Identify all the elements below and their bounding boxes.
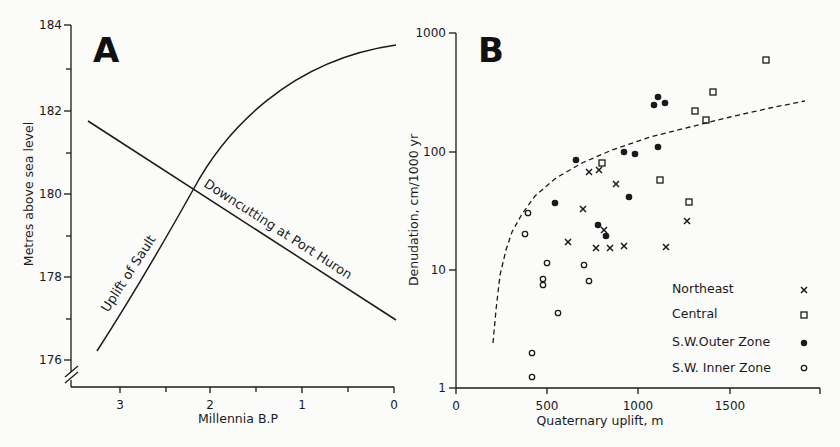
point-sw-inner bbox=[522, 231, 527, 236]
series-sw-outer bbox=[552, 94, 669, 240]
x-tick-1: 1 bbox=[298, 398, 306, 412]
point-central bbox=[692, 108, 698, 114]
point-central bbox=[710, 89, 716, 95]
panel-b-x-axis: 0 500 1000 1500 Quaternary uplift, m bbox=[452, 388, 820, 428]
point-northeast bbox=[684, 218, 690, 224]
downcutting-label: Downcutting at Port Huron bbox=[201, 176, 355, 282]
point-northeast bbox=[586, 169, 592, 175]
envelope-curve bbox=[493, 101, 805, 343]
point-sw-inner bbox=[586, 278, 591, 283]
point-northeast bbox=[663, 244, 669, 250]
panel-a: A 184 182 180 178 176 Metres above sea bbox=[21, 18, 398, 426]
point-sw-outer bbox=[595, 222, 602, 229]
x-tick-2: 2 bbox=[206, 398, 214, 412]
panel-a-x-label: Millennia B.P bbox=[198, 411, 278, 426]
y-tick-1000: 1000 bbox=[415, 26, 446, 40]
point-sw-outer bbox=[651, 102, 658, 109]
panel-b-letter: B bbox=[478, 30, 504, 70]
x-tick-0: 0 bbox=[452, 399, 460, 413]
point-sw-outer bbox=[621, 149, 628, 156]
legend-marker-open-circle-icon bbox=[801, 365, 806, 370]
point-central bbox=[657, 177, 663, 183]
legend-label-central: Central bbox=[672, 306, 718, 321]
point-sw-outer bbox=[603, 233, 610, 240]
point-sw-outer bbox=[552, 200, 559, 207]
legend-label-sw-inner: S.W. Inner Zone bbox=[672, 360, 771, 375]
point-northeast bbox=[601, 227, 607, 233]
panel-a-y-label: Metres above sea level bbox=[21, 122, 36, 266]
point-sw-inner bbox=[529, 350, 534, 355]
panel-a-letter: A bbox=[93, 30, 120, 70]
point-sw-inner bbox=[544, 260, 549, 265]
point-sw-inner bbox=[555, 310, 560, 315]
series-northeast bbox=[565, 167, 690, 251]
point-sw-inner bbox=[540, 282, 545, 287]
point-northeast bbox=[613, 181, 619, 187]
panel-b-x-label: Quaternary uplift, m bbox=[536, 413, 663, 428]
legend-marker-filled-circle-icon bbox=[801, 340, 807, 346]
legend-label-sw-outer: S.W.Outer Zone bbox=[672, 334, 770, 349]
series-central bbox=[599, 57, 769, 205]
panel-b: B 1000 100 10 1 Denudation, cm/1000 yr 0… bbox=[406, 26, 820, 428]
panel-b-y-label: Denudation, cm/1000 yr bbox=[406, 133, 421, 286]
point-northeast bbox=[565, 239, 571, 245]
point-northeast bbox=[580, 206, 586, 212]
y-tick-178: 178 bbox=[39, 270, 62, 284]
y-tick-176: 176 bbox=[39, 353, 62, 367]
y-tick-184: 184 bbox=[39, 18, 62, 32]
point-sw-outer bbox=[573, 157, 580, 164]
legend-label-northeast: Northeast bbox=[672, 281, 734, 296]
panel-a-x-axis: 3 2 1 0 Millennia B.P bbox=[71, 387, 398, 426]
point-sw-inner bbox=[525, 210, 530, 215]
x-tick-3: 3 bbox=[116, 398, 124, 412]
y-tick-100: 100 bbox=[423, 145, 446, 159]
point-northeast bbox=[596, 167, 602, 173]
point-sw-outer bbox=[655, 144, 662, 151]
x-tick-1500: 1500 bbox=[715, 399, 746, 413]
panel-a-y-axis: 184 182 180 178 176 Metres above sea lev… bbox=[21, 18, 78, 387]
point-northeast bbox=[621, 243, 627, 249]
point-central bbox=[686, 199, 692, 205]
point-northeast bbox=[607, 245, 613, 251]
point-sw-inner bbox=[540, 276, 545, 281]
legend: Northeast Central S.W.Outer Zone S.W. In… bbox=[672, 281, 807, 375]
point-sw-inner bbox=[581, 262, 586, 267]
point-sw-outer bbox=[662, 100, 669, 107]
point-sw-outer bbox=[626, 194, 633, 201]
point-central bbox=[703, 117, 709, 123]
panel-b-y-axis: 1000 100 10 1 Denudation, cm/1000 yr bbox=[406, 26, 456, 395]
legend-marker-x-icon bbox=[801, 287, 807, 293]
x-tick-0: 0 bbox=[390, 398, 398, 412]
y-tick-1: 1 bbox=[438, 381, 446, 395]
point-sw-outer bbox=[655, 94, 662, 101]
x-tick-1000: 1000 bbox=[623, 399, 654, 413]
point-central bbox=[599, 160, 605, 166]
point-sw-outer bbox=[632, 151, 639, 158]
point-sw-inner bbox=[529, 374, 534, 379]
point-northeast bbox=[593, 245, 599, 251]
figure: A 184 182 180 178 176 Metres above sea bbox=[0, 0, 840, 447]
y-tick-10: 10 bbox=[431, 263, 446, 277]
x-tick-500: 500 bbox=[536, 399, 559, 413]
legend-marker-square-icon bbox=[801, 312, 807, 318]
point-central bbox=[763, 57, 769, 63]
series-sw-inner bbox=[522, 210, 591, 379]
y-tick-182: 182 bbox=[39, 104, 62, 118]
uplift-curve bbox=[97, 45, 396, 351]
y-tick-180: 180 bbox=[39, 187, 62, 201]
